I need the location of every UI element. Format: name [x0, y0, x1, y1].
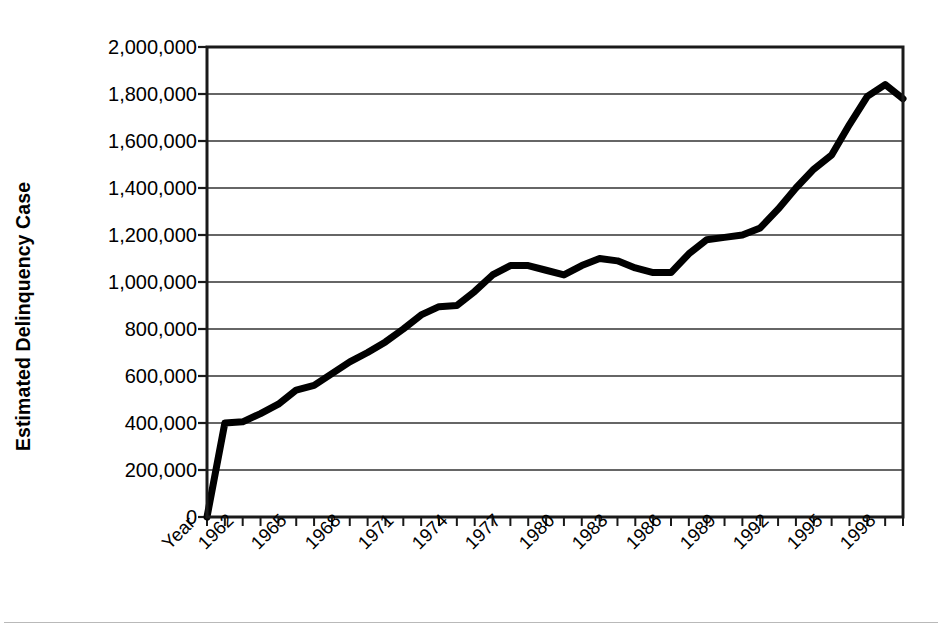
gridlines: [207, 94, 903, 470]
page-separator-rule: [4, 622, 938, 623]
data-line-estimated-delinquency-case: [207, 85, 903, 517]
delinquency-case-chart: Estimated Delinquency Case 2,000,000 1,8…: [0, 0, 942, 633]
